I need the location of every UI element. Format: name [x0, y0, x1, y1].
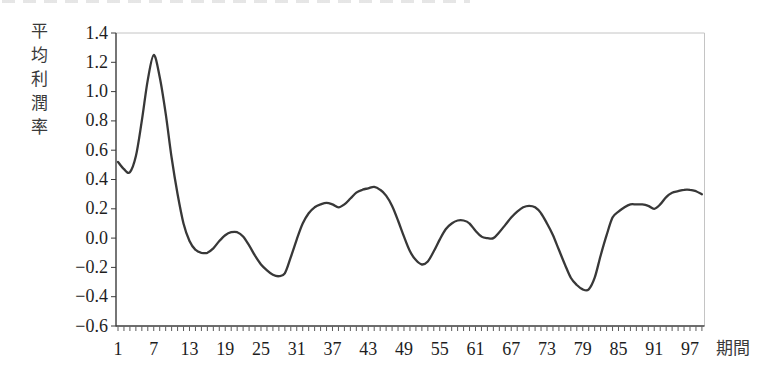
y-tick-label: −0.4 — [40, 286, 108, 307]
x-tick-label: 91 — [634, 338, 674, 360]
x-tick-label: 37 — [312, 338, 352, 360]
x-tick-label: 55 — [420, 338, 460, 360]
x-tick-label: 31 — [277, 338, 317, 360]
x-tick-label: 73 — [527, 338, 567, 360]
x-tick-label: 13 — [169, 338, 209, 360]
x-tick-label: 97 — [670, 338, 710, 360]
x-tick-label: 61 — [455, 338, 495, 360]
y-tick-label: 0.8 — [40, 110, 108, 131]
profit-rate-curve — [118, 55, 702, 290]
x-tick-label: 43 — [348, 338, 388, 360]
x-tick-label: 49 — [384, 338, 424, 360]
x-tick-label: 79 — [563, 338, 603, 360]
y-tick-label: 0.6 — [40, 140, 108, 161]
chart-page: 平均利潤率 1.41.21.00.80.60.40.20.0−0.2−0.4−0… — [0, 0, 759, 374]
y-tick-label: 0.2 — [40, 198, 108, 219]
x-tick-label: 67 — [491, 338, 531, 360]
x-tick-label: 19 — [205, 338, 245, 360]
x-axis-title: 期間 — [716, 338, 759, 360]
y-tick-label: 1.4 — [40, 23, 108, 44]
y-tick-label: 1.2 — [40, 52, 108, 73]
x-tick-label: 85 — [598, 338, 638, 360]
y-tick-label: 0.0 — [40, 228, 108, 249]
x-tick-label: 7 — [134, 338, 174, 360]
y-tick-label: −0.6 — [40, 316, 108, 337]
y-tick-label: −0.2 — [40, 257, 108, 278]
y-tick-label: 1.0 — [40, 81, 108, 102]
x-tick-label: 1 — [98, 338, 138, 360]
x-tick-label: 25 — [241, 338, 281, 360]
y-tick-label: 0.4 — [40, 169, 108, 190]
line-chart — [0, 0, 759, 374]
